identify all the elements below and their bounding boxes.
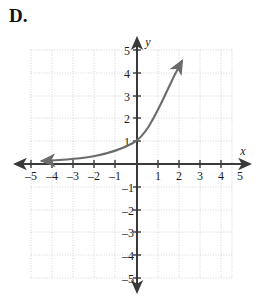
x-axis-label: x bbox=[239, 144, 246, 158]
y-tick-label: 3 bbox=[124, 90, 130, 104]
x-tick-label: –5 bbox=[24, 169, 37, 183]
y-tick-label: –4 bbox=[121, 249, 134, 263]
y-axis-label: y bbox=[144, 35, 151, 49]
panel-label: D. bbox=[9, 6, 27, 25]
y-tick-label: 2 bbox=[124, 112, 130, 126]
y-tick-label: 5 bbox=[124, 44, 130, 58]
x-tick-label: 4 bbox=[218, 169, 224, 183]
x-tick-label: 1 bbox=[155, 169, 161, 183]
y-tick-label: –2 bbox=[121, 204, 134, 218]
y-tick-label: –5 bbox=[121, 272, 134, 286]
x-tick-label: 2 bbox=[176, 169, 182, 183]
y-tick-label: 4 bbox=[124, 67, 130, 81]
exponential-curve bbox=[42, 61, 182, 161]
y-tick-label: –3 bbox=[121, 226, 134, 240]
x-tick-label: 5 bbox=[237, 169, 243, 183]
x-tick-label: –3 bbox=[66, 169, 79, 183]
x-tick-label: –4 bbox=[45, 169, 58, 183]
y-tick-label: –1 bbox=[121, 181, 134, 195]
coordinate-plane: –5 –4 –3 –2 –1 1 2 3 4 5 5 4 3 2 1 –1 –2… bbox=[0, 0, 262, 298]
x-tick-label: –2 bbox=[87, 169, 100, 183]
x-tick-label: 3 bbox=[197, 169, 203, 183]
x-tick-label: –1 bbox=[108, 169, 121, 183]
graph-figure: D. bbox=[0, 0, 262, 298]
